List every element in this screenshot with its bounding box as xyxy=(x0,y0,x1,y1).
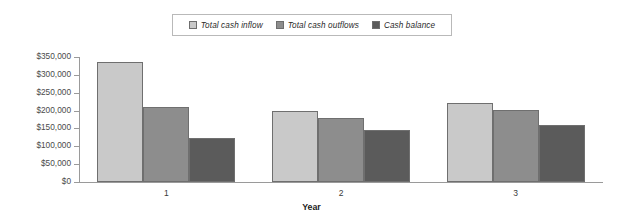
legend-item-cash-balance[interactable]: Cash balance xyxy=(372,21,435,30)
y-axis-tick-mark xyxy=(74,75,79,76)
y-axis-tick-label: $100,000 xyxy=(36,140,71,150)
x-axis-label-3: 3 xyxy=(496,188,536,198)
y-axis-tick-mark xyxy=(74,164,79,165)
legend-item-total-cash-outflows[interactable]: Total cash outflows xyxy=(276,21,359,30)
bar-2-total-cash-inflow[interactable] xyxy=(272,111,318,182)
legend-label-cash-balance: Cash balance xyxy=(384,21,435,30)
y-axis-tick-mark xyxy=(74,182,79,183)
y-axis-line xyxy=(79,57,80,183)
legend-swatch-icon-total-cash-outflows xyxy=(276,21,284,29)
y-axis-tick-label: $200,000 xyxy=(36,105,71,115)
y-axis-tick-mark xyxy=(74,111,79,112)
y-axis-tick-mark xyxy=(74,146,79,147)
legend-label-total-cash-inflow: Total cash inflow xyxy=(201,21,263,30)
x-axis-title: Year xyxy=(0,202,623,212)
x-axis-label-1: 1 xyxy=(146,188,186,198)
bar-3-total-cash-outflows[interactable] xyxy=(493,110,539,183)
legend-swatch-icon-total-cash-inflow xyxy=(189,21,197,29)
y-axis-tick-label: $350,000 xyxy=(36,51,71,61)
y-axis-tick-mark xyxy=(74,128,79,129)
legend-swatch-icon-cash-balance xyxy=(372,21,380,29)
x-axis-line xyxy=(79,182,603,183)
legend-item-total-cash-inflow[interactable]: Total cash inflow xyxy=(189,21,263,30)
y-axis-tick-label: $0 xyxy=(62,176,71,186)
bar-3-cash-balance[interactable] xyxy=(539,125,585,183)
chart-legend: Total cash inflow Total cash outflows Ca… xyxy=(172,14,452,36)
y-axis-tick-label: $250,000 xyxy=(36,87,71,97)
y-axis-tick-label: $150,000 xyxy=(36,122,71,132)
bar-2-cash-balance[interactable] xyxy=(364,130,410,182)
bar-1-total-cash-inflow[interactable] xyxy=(97,62,143,182)
bar-1-cash-balance[interactable] xyxy=(189,138,235,182)
bar-3-total-cash-inflow[interactable] xyxy=(447,103,493,182)
x-axis-label-2: 2 xyxy=(321,188,361,198)
y-axis-tick-label: $300,000 xyxy=(36,69,71,79)
bar-1-total-cash-outflows[interactable] xyxy=(143,107,189,182)
legend-label-total-cash-outflows: Total cash outflows xyxy=(288,21,359,30)
bar-chart: Total cash inflow Total cash outflows Ca… xyxy=(0,0,623,218)
y-axis-tick-mark xyxy=(74,93,79,94)
bar-2-total-cash-outflows[interactable] xyxy=(318,118,364,182)
y-axis-tick-label: $50,000 xyxy=(41,158,71,168)
y-axis-tick-mark xyxy=(74,57,79,58)
